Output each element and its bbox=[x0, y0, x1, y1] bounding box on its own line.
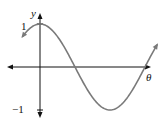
y-axis bbox=[37, 13, 43, 118]
y-axis-down-arrow-icon bbox=[38, 112, 43, 118]
y-tick-label-max: 1 bbox=[21, 21, 27, 32]
y-axis-up-arrow-icon bbox=[38, 13, 43, 19]
plot-area bbox=[0, 0, 159, 121]
cosine-graph: y 1 −1 θ bbox=[0, 0, 159, 121]
y-axis-label: y bbox=[31, 8, 36, 19]
y-tick-label-min: −1 bbox=[12, 104, 24, 115]
x-axis-left-arrow-icon bbox=[7, 65, 13, 70]
x-axis-label: θ bbox=[146, 72, 151, 83]
x-axis bbox=[7, 65, 151, 70]
